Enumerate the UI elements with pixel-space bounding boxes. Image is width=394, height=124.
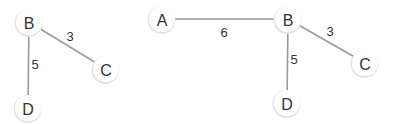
- node-label: A: [157, 12, 168, 29]
- edges-layer: [28, 19, 365, 108]
- edge-weight-B-C: 3: [326, 24, 333, 39]
- edge-weight-B-C: 3: [66, 29, 73, 44]
- nodes-layer: BCDABCD: [15, 6, 379, 122]
- node-D: D: [274, 90, 301, 117]
- node-D: D: [15, 95, 42, 122]
- node-label: C: [359, 56, 371, 73]
- node-label: B: [283, 12, 294, 29]
- node-A: A: [149, 6, 176, 33]
- node-C: C: [93, 56, 120, 83]
- node-C: C: [352, 50, 379, 77]
- node-label: B: [24, 15, 35, 32]
- graph-diagram: BCDABCD 35635: [0, 0, 394, 124]
- node-B: B: [275, 6, 302, 33]
- node-B: B: [16, 9, 43, 36]
- node-label: D: [281, 96, 293, 113]
- node-label: D: [22, 101, 34, 118]
- edge-weight-B-D: 5: [290, 52, 297, 67]
- edge-weight-B-D: 5: [31, 57, 38, 72]
- graph-canvas: BCDABCD 35635: [0, 0, 394, 124]
- edge-weight-A-B: 6: [220, 25, 227, 40]
- node-label: C: [100, 62, 112, 79]
